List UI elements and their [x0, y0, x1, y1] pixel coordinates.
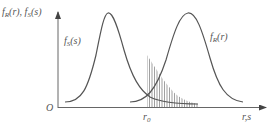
x-axis-label: r,s	[242, 111, 251, 122]
curve-fs	[65, 13, 198, 104]
curve-fs-label: fS(s)	[64, 35, 82, 48]
y-axis-label: fR(r), fS(s)	[2, 6, 42, 19]
r0-label: r0	[143, 111, 151, 124]
origin-label: O	[46, 102, 53, 113]
hatched-failure-region	[147, 40, 197, 107]
curve-fr-label: fR(r)	[210, 31, 228, 44]
curve-fr	[130, 13, 243, 102]
interference-diagram: fR(r), fS(s) fS(s) fR(r) O r0 r,s	[0, 0, 271, 124]
